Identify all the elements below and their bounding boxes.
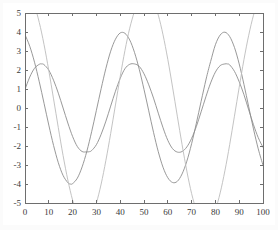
x-tick-label: 60	[163, 207, 173, 217]
y-tick-label: -5	[14, 198, 22, 208]
line-chart: 0102030405060708090100 -5-4-3-2-1012345	[3, 3, 275, 225]
y-tick-label: -3	[14, 160, 22, 170]
x-tick-label: 100	[256, 207, 270, 217]
x-tick-label: 90	[235, 207, 245, 217]
y-tick-label: -2	[14, 141, 22, 151]
y-tick-label: 4	[17, 27, 22, 37]
x-tick-label: 10	[44, 207, 54, 217]
x-tick-label: 70	[187, 207, 197, 217]
y-tick-label: 1	[17, 84, 22, 94]
figure-canvas: 0102030405060708090100 -5-4-3-2-1012345	[3, 3, 275, 225]
x-tick-label: 0	[23, 207, 28, 217]
x-tick-label: 40	[116, 207, 126, 217]
y-tick-label: 3	[17, 46, 22, 56]
y-tick-label: 5	[17, 8, 22, 18]
plot-background-rect	[3, 3, 275, 225]
x-tick-label: 50	[140, 207, 150, 217]
x-tick-label: 30	[92, 207, 102, 217]
y-tick-label: 2	[17, 65, 22, 75]
x-tick-label: 80	[211, 207, 221, 217]
x-tick-label: 20	[68, 207, 78, 217]
plot-background	[3, 3, 275, 225]
figure-container: 0102030405060708090100 -5-4-3-2-1012345	[0, 0, 278, 230]
y-tick-label: -4	[14, 179, 22, 189]
y-tick-label: -1	[14, 122, 22, 132]
y-tick-label: 0	[17, 103, 22, 113]
